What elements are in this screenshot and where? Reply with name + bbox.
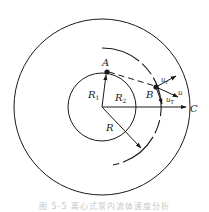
figure-caption: 图 5-5 离心式泵内流体速度分析 <box>0 200 209 211</box>
r1-arrow <box>102 75 106 107</box>
label-b: B <box>145 89 153 100</box>
label-ur: ur <box>161 76 169 85</box>
centrifugal-velocity-diagram: A B C R1 R2 R ur u uT <box>0 0 209 212</box>
label-c: C <box>190 103 198 114</box>
label-r2: R2 <box>114 92 127 104</box>
label-r1: R1 <box>87 89 99 101</box>
point-a <box>104 69 109 74</box>
label-ut: uT <box>166 96 175 105</box>
label-r: R <box>105 122 114 133</box>
path-a-to-b <box>109 72 155 86</box>
label-u: u <box>178 89 183 97</box>
trajectory-arc <box>102 48 161 165</box>
label-a: A <box>101 57 109 68</box>
